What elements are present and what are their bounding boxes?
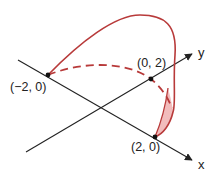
dashed-curve <box>48 65 172 108</box>
point-neg2-0 <box>46 73 51 78</box>
point-label-neg2-0: (−2, 0) <box>10 81 46 94</box>
point-label-0-2: (0, 2) <box>137 57 166 70</box>
point-2-0 <box>153 135 158 140</box>
x-axis-label: x <box>198 158 205 171</box>
y-axis-label: y <box>198 46 205 59</box>
point-0-2 <box>149 77 154 82</box>
point-label-2-0: (2, 0) <box>131 141 160 154</box>
solid-curve <box>48 15 175 137</box>
